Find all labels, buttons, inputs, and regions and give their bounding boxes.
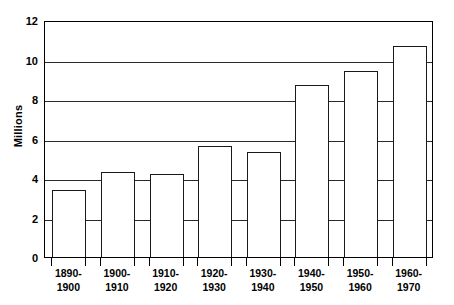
bar — [344, 71, 378, 257]
x-tick-mark — [85, 258, 86, 266]
x-category-label: 1940- 1950 — [287, 266, 336, 294]
y-axis-tick-labels: 024681012 — [14, 21, 38, 258]
x-category-label: 1910- 1920 — [141, 266, 190, 294]
x-tick-mark — [426, 258, 427, 266]
bar-chart: Millions 024681012 1890- 19001900- 19101… — [0, 0, 454, 305]
y-tick-label: 10 — [14, 55, 38, 66]
bar-series — [45, 22, 432, 257]
x-tick-mark — [377, 258, 378, 266]
y-tick-label: 4 — [14, 174, 38, 185]
x-tick-mark — [134, 258, 135, 266]
x-tick-mark — [328, 258, 329, 266]
x-tick-mark — [197, 258, 198, 266]
bar — [247, 152, 281, 257]
x-tick-mark — [231, 258, 232, 266]
x-category-label: 1930- 1940 — [239, 266, 288, 294]
bar — [52, 190, 86, 257]
x-category-label: 1960- 1970 — [384, 266, 433, 294]
x-tick-mark — [392, 258, 393, 266]
plot-area — [44, 21, 433, 258]
y-tick-label: 8 — [14, 95, 38, 106]
x-tick-mark — [51, 258, 52, 266]
x-category-label: 1900- 1910 — [93, 266, 142, 294]
x-category-label: 1890- 1900 — [44, 266, 93, 294]
x-axis-ticks — [44, 258, 433, 266]
bar — [101, 172, 135, 257]
x-tick-mark — [100, 258, 101, 266]
x-tick-mark — [246, 258, 247, 266]
x-tick-mark — [149, 258, 150, 266]
bar — [150, 174, 184, 257]
y-tick-label: 0 — [14, 253, 38, 264]
y-tick-label: 2 — [14, 213, 38, 224]
x-category-label: 1950- 1960 — [336, 266, 385, 294]
bar — [198, 146, 232, 257]
x-tick-mark — [280, 258, 281, 266]
bar — [393, 46, 427, 257]
x-axis-tick-labels: 1890- 19001900- 19101910- 19201920- 1930… — [44, 266, 433, 302]
y-tick-label: 6 — [14, 134, 38, 145]
x-tick-mark — [183, 258, 184, 266]
x-category-label: 1920- 1930 — [190, 266, 239, 294]
bar — [295, 85, 329, 257]
y-tick-label: 12 — [14, 16, 38, 27]
x-tick-mark — [294, 258, 295, 266]
x-tick-mark — [343, 258, 344, 266]
